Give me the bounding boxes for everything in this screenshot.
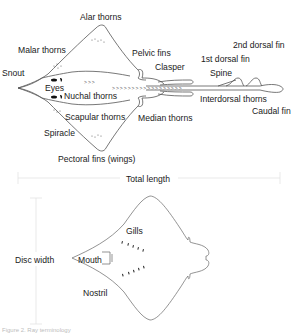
label-malar-thorns: Malar thorns <box>18 45 66 55</box>
label-median-thorns: Median thorns <box>138 113 192 123</box>
label-caudal-fin: Caudal fin <box>252 106 291 116</box>
label-mouth: Mouth <box>78 255 102 265</box>
label-1st-dorsal-fin: 1st dorsal fin <box>201 54 250 64</box>
label-snout: Snout <box>2 68 24 78</box>
svg-text:>>>: >>> <box>84 79 96 85</box>
figure-caption: Figure 2. Ray terminology <box>2 327 71 333</box>
label-total-length: Total length <box>126 174 170 184</box>
label-clasper: Clasper <box>155 62 185 72</box>
svg-text:>>>>>>>>>>>>>>>>>>: >>>>>>>>>>>>>>>>>> <box>112 85 183 91</box>
label-spiracle: Spiracle <box>44 128 75 138</box>
label-pectoral-fins: Pectoral fins (wings) <box>58 154 135 164</box>
label-2nd-dorsal-fin: 2nd dorsal fin <box>233 40 285 50</box>
label-pelvic-fins: Pelvic fins <box>132 48 171 58</box>
label-scapular-thorns: Scapular thorns <box>65 112 125 122</box>
gills-icon <box>121 241 144 276</box>
label-spine: Spine <box>210 68 232 78</box>
label-gills: Gills <box>126 226 143 236</box>
label-disc-width: Disc width <box>15 255 54 265</box>
label-interdorsal-thorns: Interdorsal thorns <box>200 94 267 104</box>
label-eyes: Eyes <box>45 83 64 93</box>
label-nostril: Nostril <box>83 288 107 298</box>
label-nuchal-thorns: Nuchal thorns <box>64 91 117 101</box>
label-alar-thorns: Alar thorns <box>80 12 122 22</box>
measure-lines <box>18 172 280 324</box>
